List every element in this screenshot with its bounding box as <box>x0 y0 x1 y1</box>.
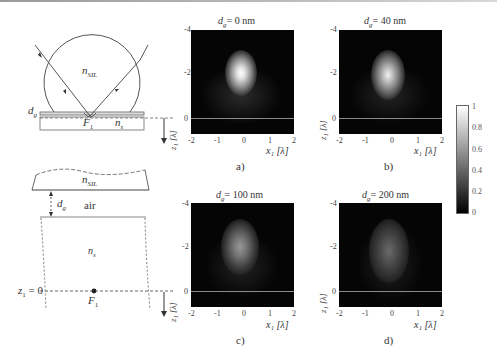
colorbar-tick: 0.6 <box>472 145 482 154</box>
panel-b-caption: b) <box>384 160 393 172</box>
focus-label: F1 <box>83 116 93 131</box>
panel-b-xtick: -2 <box>336 136 343 145</box>
panel-c-caption: c) <box>236 334 245 346</box>
panel-a-xtick: 1 <box>268 136 272 145</box>
z-origin-label: z1 = 0 <box>18 284 43 299</box>
colorbar-tick: 1 <box>472 102 476 111</box>
ns-label-bottom: ns <box>88 245 96 259</box>
panel-a-ytick: 0 <box>184 114 188 123</box>
ns-label: ns <box>115 116 123 131</box>
panel-d-ytick: -2 <box>330 242 337 251</box>
panel-a-xtick: -2 <box>188 136 195 145</box>
panel-b-xtick: 0 <box>390 136 394 145</box>
dg-label-bottom: dg <box>57 197 66 212</box>
n-sil-label: nSIL <box>82 64 97 79</box>
panel-a-xlabel: x₁ [λ] <box>266 145 289 156</box>
colorbar-tick: 0.8 <box>472 123 482 132</box>
panel-a-xtick: 0 <box>242 136 246 145</box>
colorbar-tick: 0.4 <box>472 166 482 175</box>
panel-a-title: dg= 0 nm <box>218 15 255 29</box>
dg-label: dg <box>28 104 37 119</box>
panel-b-intensity-map <box>339 30 442 134</box>
sil-schematic-top <box>0 0 185 180</box>
panel-c-intensity-map <box>191 203 294 307</box>
panel-d-ytick: -4 <box>330 199 337 208</box>
sil-schematic-bottom <box>0 160 185 360</box>
panel-d-ylabel: z₁ [λ] <box>318 293 328 313</box>
colorbar <box>456 105 469 214</box>
air-label: air <box>84 199 96 211</box>
panel-b-xtick: 1 <box>416 136 420 145</box>
panel-d-intensity-map <box>339 203 442 307</box>
panel-b-xlabel: x₁ [λ] <box>414 145 437 156</box>
panel-a-xtick: -1 <box>214 136 221 145</box>
panel-d-xlabel: x₁ [λ] <box>414 319 437 330</box>
panel-d-xtick: -1 <box>362 309 369 318</box>
colorbar-tick: 0 <box>472 208 476 217</box>
panel-c-xtick: 1 <box>268 309 272 318</box>
panel-c-xtick: -1 <box>214 309 221 318</box>
focus-label-bottom: F1 <box>88 294 98 309</box>
panel-d-xtick: -2 <box>336 309 343 318</box>
panel-b-title: dg= 40 nm <box>364 15 406 29</box>
panel-a-ytick: -4 <box>184 25 191 34</box>
panel-b-xtick: -1 <box>362 136 369 145</box>
panel-c-xtick: -2 <box>188 309 195 318</box>
z-axis-label-bottom-schematic: z₁ [λ] <box>168 302 178 322</box>
panel-b-ytick: -2 <box>330 68 337 77</box>
panel-b-ytick: -4 <box>330 25 337 34</box>
panel-c-xtick: 2 <box>292 309 296 318</box>
panel-c-xtick: 0 <box>242 309 246 318</box>
panel-a-intensity-map <box>191 30 294 134</box>
panel-c-ytick: 0 <box>184 287 188 296</box>
n-sil-label-bottom: nSIL <box>82 173 97 188</box>
panel-b-ylabel: z₁ [λ] <box>318 120 328 140</box>
z-axis-label-top-schematic: z₁ [λ] <box>168 130 178 150</box>
panel-d-xtick: 2 <box>440 309 444 318</box>
panel-a-ytick: -2 <box>184 68 191 77</box>
panel-c-xlabel: x₁ [λ] <box>266 319 289 330</box>
panel-d-caption: d) <box>384 334 393 346</box>
panel-d-ytick: 0 <box>332 287 336 296</box>
panel-a-xtick: 2 <box>292 136 296 145</box>
panel-b-xtick: 2 <box>440 136 444 145</box>
panel-d-xtick: 1 <box>416 309 420 318</box>
panel-c-ytick: -4 <box>182 199 189 208</box>
panel-d-title: dg= 200 nm <box>362 189 409 203</box>
panel-a-caption: a) <box>236 160 245 172</box>
panel-c-ytick: -2 <box>182 242 189 251</box>
panel-d-xtick: 0 <box>390 309 394 318</box>
colorbar-tick: 0.2 <box>472 187 482 196</box>
panel-c-title: dg= 100 nm <box>216 189 263 203</box>
panel-b-ytick: 0 <box>332 114 336 123</box>
